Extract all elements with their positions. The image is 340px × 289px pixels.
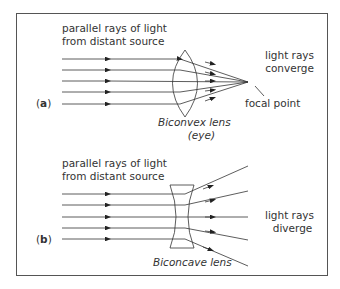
biconcave-lens	[170, 185, 194, 248]
panel-a-label: (a)	[36, 97, 51, 110]
converge-label: light raysconverge	[265, 49, 314, 75]
panel-b-label: (b)	[36, 233, 52, 246]
biconcave-lens-label: Biconcave lens	[153, 256, 232, 269]
source-label-a: parallel rays of lightfrom distant sourc…	[62, 22, 167, 48]
biconvex-rays	[62, 59, 264, 104]
source-label-b: parallel rays of lightfrom distant sourc…	[62, 157, 167, 183]
biconvex-lens	[173, 50, 198, 117]
diverge-label: light raysdiverge	[265, 209, 314, 235]
focal-point-label: focal point	[245, 97, 300, 110]
biconvex-lens-label: Biconvex lens(eye)	[158, 116, 231, 142]
